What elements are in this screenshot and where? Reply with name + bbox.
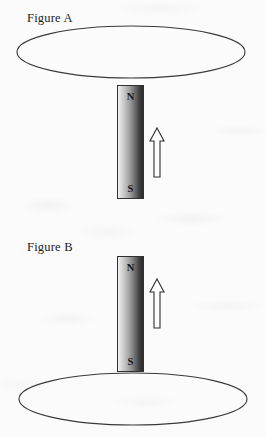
loop-ellipse-b: [19, 373, 247, 425]
figure-a-conducting-loop: [0, 22, 266, 82]
figure-b-south-pole-label: S: [118, 356, 143, 367]
arrow-up-shape-a: [150, 128, 164, 177]
figure-page: Figure A N S Figure B N S: [0, 0, 266, 437]
figure-b-conducting-loop: [0, 370, 266, 430]
figure-b-label: Figure B: [27, 240, 73, 255]
arrow-up-shape-b: [150, 279, 164, 328]
figure-a-motion-arrow-up-icon: [148, 126, 166, 180]
figure-a-north-pole-label: N: [118, 91, 143, 102]
figure-b-north-pole-label: N: [118, 262, 143, 273]
figure-a-south-pole-label: S: [118, 183, 143, 194]
figure-b-motion-arrow-up-icon: [148, 277, 166, 331]
loop-ellipse-a: [17, 26, 245, 78]
figure-a-bar-magnet: N S: [117, 85, 144, 199]
figure-b-bar-magnet: N S: [117, 256, 144, 372]
